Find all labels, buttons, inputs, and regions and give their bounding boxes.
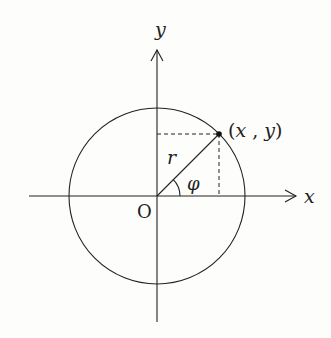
radius-label: r <box>167 146 178 168</box>
x-axis-label: x <box>304 185 315 207</box>
polar-diagram: y x O r φ (x , y) <box>0 0 331 338</box>
point-close-paren: ) <box>275 119 282 141</box>
point-comma: , <box>246 119 264 141</box>
point-y: y <box>263 119 275 141</box>
point-label: (x , y) <box>228 119 282 141</box>
point-dot <box>216 131 222 137</box>
y-axis-label: y <box>154 18 166 40</box>
origin-label: O <box>137 201 152 222</box>
angle-arc <box>173 180 180 196</box>
diagram-canvas: y x O r φ (x , y) <box>0 0 331 338</box>
point-x: x <box>235 119 246 141</box>
angle-label: φ <box>187 173 200 194</box>
point-open-paren: ( <box>228 119 235 141</box>
